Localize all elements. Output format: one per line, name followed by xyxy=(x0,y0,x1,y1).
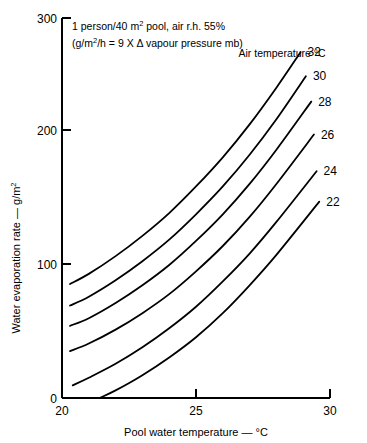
series-label-32: 32 xyxy=(308,45,322,59)
x-tick-label-25: 25 xyxy=(189,404,203,418)
annotation-1-pre: 1 person/40 m xyxy=(72,20,139,32)
x-tick-label-20: 20 xyxy=(55,404,69,418)
series-curve-26 xyxy=(70,135,314,352)
series-labels-group: 323028262422 xyxy=(308,45,340,209)
x-tick-label-30: 30 xyxy=(323,404,337,418)
annotation-line-1: 1 person/40 m2 pool, air r.h. 55% xyxy=(72,19,225,32)
y-tick-label-300: 300 xyxy=(37,12,57,26)
series-curve-24 xyxy=(73,171,317,385)
series-curve-32 xyxy=(70,52,300,284)
annotation-2-pre: (g/m xyxy=(72,37,93,49)
x-axis-title: Pool water temperature — °C xyxy=(124,426,268,438)
series-label-24: 24 xyxy=(324,164,338,178)
series-curves-group xyxy=(70,52,319,398)
series-curve-22 xyxy=(100,202,320,398)
y-axis-title: Water evaporation rate — g/m2 xyxy=(9,182,22,333)
svg-text:Water evaporation rate — g/m2: Water evaporation rate — g/m2 xyxy=(9,182,22,333)
y-axis-title-sup: 2 xyxy=(9,182,18,186)
annotation-block: 1 person/40 m2 pool, air r.h. 55% (g/m2/… xyxy=(72,19,243,49)
evaporation-rate-chart: 300 200 100 0 20 25 30 Pool water temper… xyxy=(0,0,367,443)
y-axis-title-text: Water evaporation rate — g/m xyxy=(10,187,22,334)
y-tick-group xyxy=(62,18,71,264)
chart-page: 300 200 100 0 20 25 30 Pool water temper… xyxy=(0,0,367,443)
series-label-30: 30 xyxy=(313,69,327,83)
series-label-26: 26 xyxy=(321,128,335,142)
annotation-2-post: /h = 9 X Δ vapour pressure mb) xyxy=(97,37,243,49)
series-label-22: 22 xyxy=(326,195,340,209)
y-tick-label-200: 200 xyxy=(37,124,57,138)
series-curve-28 xyxy=(70,102,311,326)
annotation-1-post: pool, air r.h. 55% xyxy=(143,20,225,32)
axis-group xyxy=(62,18,330,398)
annotation-line-2: (g/m2/h = 9 X Δ vapour pressure mb) xyxy=(72,36,243,49)
y-tick-label-100: 100 xyxy=(37,258,57,272)
series-label-28: 28 xyxy=(318,95,332,109)
